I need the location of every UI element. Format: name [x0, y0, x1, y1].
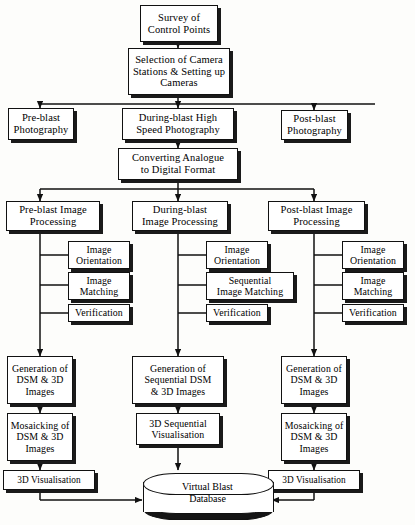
node-pre-image-matching: Image Matching	[68, 272, 130, 300]
node-post-verification: Verification	[342, 304, 404, 322]
node-pre-3d-visualisation: 3D Visualisation	[3, 470, 95, 490]
node-during-blast-image-processing: During-blast Image Processing	[132, 201, 228, 231]
node-converting-analogue-to-digital: Converting Analogue to Digital Format	[118, 148, 238, 180]
node-pre-image-orientation: Image Orientation	[68, 241, 130, 269]
node-during-generation-sequential-dsm-3d: Generation of Sequential DSM & 3D Images	[132, 356, 224, 404]
node-during-blast-high-speed-photography: During-blast High Speed Photography	[122, 108, 234, 140]
node-virtual-blast-database: Virtual Blast Database	[143, 473, 272, 520]
node-post-mosaicking-dsm-3d: Mosaicking of DSM & 3D Images	[281, 413, 347, 461]
node-pre-generation-dsm-3d: Generation of DSM & 3D Images	[7, 356, 73, 404]
node-post-blast-image-processing: Post-blast Image Processing	[268, 201, 365, 231]
node-post-image-orientation: Image Orientation	[342, 241, 404, 269]
node-pre-verification: Verification	[68, 304, 130, 322]
node-post-image-matching: Image Matching	[342, 272, 404, 300]
database-label: Virtual Blast Database	[143, 481, 272, 504]
flowchart-diagram: Survey of Control Points Selection of Ca…	[0, 0, 415, 525]
node-during-verification: Verification	[206, 304, 268, 322]
node-pre-mosaicking-dsm-3d: Mosaicking of DSM & 3D Images	[7, 413, 73, 461]
node-post-3d-visualisation: 3D Visualisation	[268, 470, 360, 490]
node-selection-of-camera-stations: Selection of Camera Stations & Setting u…	[128, 48, 230, 95]
node-3d-sequential-visualisation: 3D Sequential Visualisation	[136, 413, 220, 445]
node-pre-blast-image-processing: Pre-blast Image Processing	[6, 201, 100, 231]
node-post-blast-photography: Post-blast Photography	[281, 110, 348, 140]
node-post-generation-dsm-3d: Generation of DSM & 3D Images	[281, 356, 347, 404]
node-pre-blast-photography: Pre-blast Photography	[8, 108, 74, 140]
node-during-sequential-image-matching: Sequential Image Matching	[206, 272, 294, 300]
node-during-image-orientation: Image Orientation	[206, 241, 268, 269]
node-survey-of-control-points: Survey of Control Points	[140, 5, 218, 42]
